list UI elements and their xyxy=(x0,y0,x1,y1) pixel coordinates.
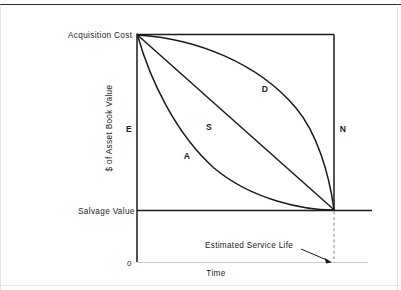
figure-page: Acquisition Cost Salvage Value $ of Asse… xyxy=(0,0,401,290)
service-life-leader-line xyxy=(301,249,328,261)
curve-a-label: A xyxy=(184,151,190,161)
curve-d-label: D xyxy=(262,84,268,94)
point-e-label: E xyxy=(126,124,132,134)
point-n-label: N xyxy=(340,124,346,134)
origin-tick-label: 0 xyxy=(127,259,132,268)
acquisition-cost-label: Acquisition Cost xyxy=(68,31,133,40)
x-axis-label: Time xyxy=(206,269,225,278)
annotation-leaders xyxy=(301,249,332,263)
chart-axes xyxy=(137,34,372,263)
service-life-annotation: Estimated Service Life xyxy=(205,241,293,250)
depreciation-curves xyxy=(138,35,335,210)
depreciation-chart: Acquisition Cost Salvage Value $ of Asse… xyxy=(0,0,401,290)
curve-s-label: S xyxy=(206,122,212,132)
y-axis-label: $ of Asset Book Value xyxy=(105,84,114,171)
salvage-value-label: Salvage Value xyxy=(78,207,135,216)
